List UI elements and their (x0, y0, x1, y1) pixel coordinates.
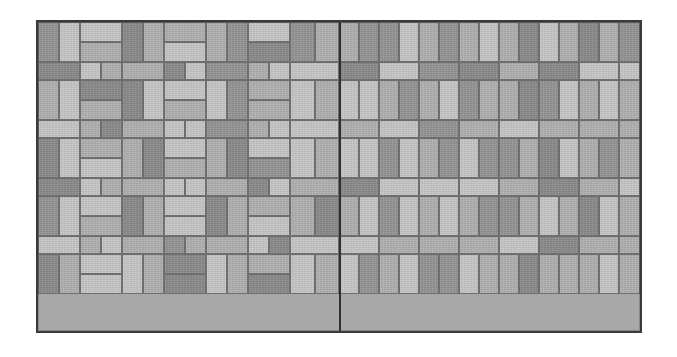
paver-tile-horizontal (164, 138, 206, 158)
paver-tile-stretcher (539, 120, 579, 138)
paver-tile-stretcher (499, 62, 539, 80)
basketweave-half (38, 22, 339, 331)
paver-tile-soldier (439, 138, 459, 178)
paver-tile-soldier (499, 80, 519, 120)
paver-tile-soldier (339, 138, 359, 178)
paver-tile-vertical (164, 120, 185, 138)
paver-tile-stretcher (619, 62, 640, 80)
paver-tile-soldier (379, 80, 399, 120)
paver-tile-vertical (143, 138, 164, 178)
paver-tile-vertical (290, 138, 315, 178)
paver-tile-soldier (499, 138, 519, 178)
paver-tile-vertical (290, 80, 315, 120)
paver-tile-vertical (248, 178, 269, 196)
paver-tile-stretcher (38, 120, 80, 138)
paver-tile-vertical (38, 138, 59, 178)
paver-tile-soldier (419, 138, 439, 178)
paver-tile-soldier (559, 196, 579, 236)
paver-tile-vertical (269, 178, 290, 196)
paver-tile-stretcher (379, 120, 419, 138)
paver-tile-soldier (579, 80, 599, 120)
paver-tile-horizontal (248, 254, 290, 274)
paver-tile-horizontal (248, 100, 290, 120)
paver-tile-horizontal (80, 42, 122, 62)
paver-tile-vertical (101, 62, 122, 80)
paver-tile-soldier (399, 196, 419, 236)
paver-tile-soldier (399, 254, 419, 294)
paver-tile-horizontal (80, 100, 122, 120)
paver-tile-vertical (290, 196, 315, 236)
paver-tile-soldier (479, 80, 499, 120)
paver-tile-stretcher (206, 236, 248, 254)
paver-tile-vertical (206, 196, 227, 236)
paver-tile-soldier (559, 138, 579, 178)
paver-tile-soldier (419, 22, 439, 62)
paver-tile-vertical (164, 236, 185, 254)
paver-tile-soldier (579, 138, 599, 178)
paver-tile-stretcher (38, 62, 80, 80)
paver-tile-horizontal (164, 100, 206, 120)
paver-tile-soldier (619, 138, 640, 178)
paver-tile-stretcher (122, 236, 164, 254)
paver-tile-horizontal (80, 80, 122, 100)
paver-tile-soldier (599, 80, 619, 120)
paver-tile-soldier (479, 138, 499, 178)
paver-tile-vertical (101, 120, 122, 138)
paver-tile-vertical (206, 138, 227, 178)
paver-tile-vertical (59, 138, 80, 178)
paver-tile-horizontal (80, 274, 122, 294)
paver-tile-vertical (227, 138, 248, 178)
paver-tile-stretcher (459, 62, 499, 80)
paver-tile-soldier (459, 254, 479, 294)
paver-tile-vertical (206, 80, 227, 120)
paver-tile-vertical (80, 62, 101, 80)
paver-tile-stretcher (206, 178, 248, 196)
paver-tile-soldier (559, 22, 579, 62)
paver-tile-stretcher (459, 120, 499, 138)
paver-tile-vertical (185, 120, 206, 138)
paver-tile-vertical (38, 254, 59, 294)
paver-tile-vertical (315, 138, 339, 178)
paver-tile-soldier (339, 196, 359, 236)
paver-tile-vertical (315, 80, 339, 120)
paver-tile-vertical (122, 80, 143, 120)
paver-tile-stretcher (419, 236, 459, 254)
paver-tile-soldier (539, 80, 559, 120)
paver-tile-vertical (248, 62, 269, 80)
paver-tile-soldier (619, 254, 640, 294)
paver-tile-soldier (619, 80, 640, 120)
paver-tile-soldier (519, 196, 539, 236)
paver-tile-stretcher (122, 62, 164, 80)
paver-tile-horizontal (248, 80, 290, 100)
paver-tile-vertical (227, 196, 248, 236)
paver-tile-soldier (399, 80, 419, 120)
paver-tile-soldier (459, 80, 479, 120)
paver-tile-vertical (206, 254, 227, 294)
paver-tile-horizontal (164, 196, 206, 216)
paver-tile-vertical (315, 196, 339, 236)
paver-tile-soldier (459, 22, 479, 62)
paver-tile-soldier (479, 22, 499, 62)
paver-tile-vertical (206, 22, 227, 62)
paver-tile-soldier (359, 196, 379, 236)
paver-tile-stretcher (290, 178, 339, 196)
paver-tile-stretcher (290, 120, 339, 138)
paver-tile-horizontal (248, 196, 290, 216)
paver-tile-stretcher (539, 236, 579, 254)
paver-tile-horizontal (80, 158, 122, 178)
paver-tile-soldier (599, 254, 619, 294)
paver-tile-horizontal (80, 22, 122, 42)
paver-tile-stretcher (339, 120, 379, 138)
paver-tile-horizontal (164, 22, 206, 42)
paver-tile-vertical (227, 254, 248, 294)
paver-tile-stretcher (499, 120, 539, 138)
paver-tile-vertical (269, 236, 290, 254)
paver-tile-vertical (315, 254, 339, 294)
paver-tile-vertical (185, 178, 206, 196)
paver-tile-stretcher (419, 178, 459, 196)
paver-tile-horizontal (80, 196, 122, 216)
paver-tile-stretcher (290, 236, 339, 254)
paver-tile-soldier (419, 254, 439, 294)
paver-tile-soldier (499, 196, 519, 236)
paver-tile-vertical (122, 196, 143, 236)
